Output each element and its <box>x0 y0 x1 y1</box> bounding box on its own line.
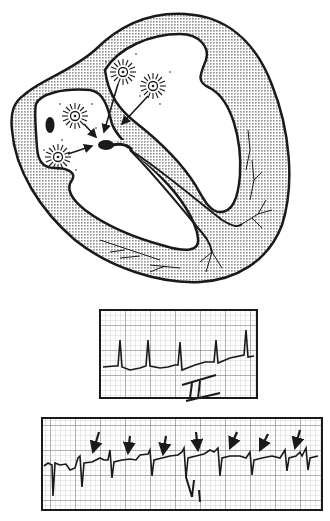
heart-diagram <box>12 14 290 282</box>
av-node <box>98 140 114 150</box>
lead-label-subscript: 1 <box>0 0 9 3</box>
heart-ecg-figure: II V 1 <box>0 0 330 521</box>
sinoatrial-node <box>46 117 55 133</box>
